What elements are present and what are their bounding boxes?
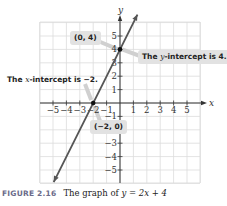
svg-text:5: 5 xyxy=(184,105,189,115)
svg-text:−3: −3 xyxy=(104,138,117,148)
figure-caption: FIGURE 2.16The graph of y = 2x + 4 xyxy=(2,188,167,198)
x-axis-label: x xyxy=(209,98,214,108)
svg-text:−4: −4 xyxy=(104,152,117,162)
y-intercept-text-pre: The xyxy=(142,52,160,61)
caption-equation: y = 2x + 4 xyxy=(121,188,166,198)
x-intercept-text-post: -intercept is −2. xyxy=(29,75,98,84)
svg-text:−3: −3 xyxy=(74,105,87,115)
svg-text:1: 1 xyxy=(131,105,136,115)
y-intercept-callout: The y-intercept is 4. xyxy=(138,50,227,64)
svg-text:2: 2 xyxy=(112,71,117,81)
svg-text:4: 4 xyxy=(171,105,176,115)
y-intercept-text-post: -intercept is 4. xyxy=(164,52,226,61)
svg-text:−5: −5 xyxy=(104,165,117,175)
y-axis-label: y xyxy=(117,5,124,15)
x-intercept-text-pre: The xyxy=(7,75,25,84)
figure-number: FIGURE 2.16 xyxy=(2,189,56,198)
svg-text:−5: −5 xyxy=(47,105,60,115)
x-intercept-callout: The x-intercept is −2. xyxy=(3,73,102,87)
svg-text:4: 4 xyxy=(112,44,117,54)
svg-text:−4: −4 xyxy=(60,105,73,115)
point-label-neg2-0: (−2, 0) xyxy=(90,120,127,134)
graph-canvas: −5−4−3−2−112345−5−4−3−112345 x y xyxy=(0,0,227,206)
svg-text:5: 5 xyxy=(112,31,117,41)
svg-text:2: 2 xyxy=(144,105,149,115)
caption-text: The graph of xyxy=(63,188,121,198)
point-label-0-4: (0, 4) xyxy=(70,31,101,45)
svg-text:1: 1 xyxy=(112,85,117,95)
svg-text:3: 3 xyxy=(157,105,162,115)
